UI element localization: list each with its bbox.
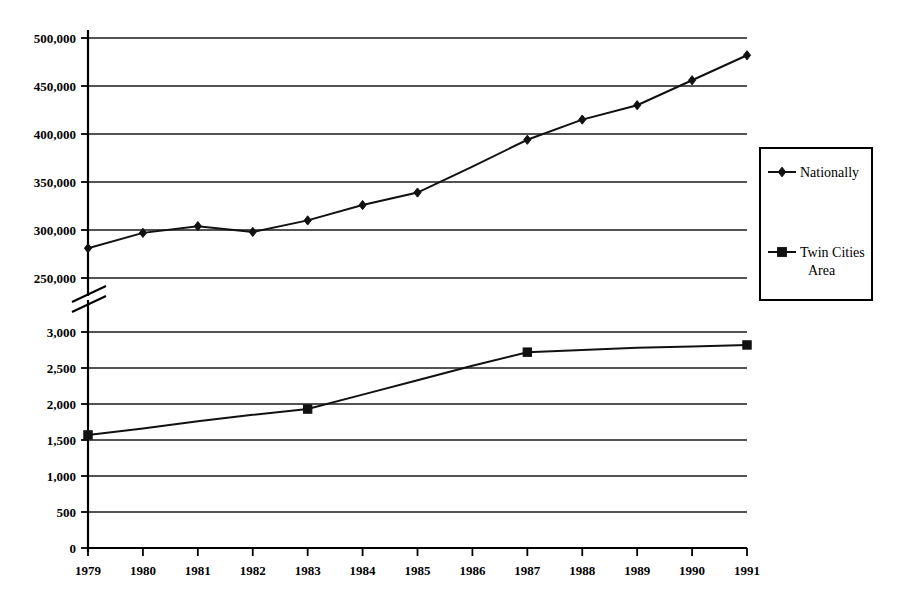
- chart-container: 250,000300,000350,000400,000450,000500,0…: [0, 0, 903, 602]
- legend-label: Nationally: [800, 165, 859, 180]
- x-tick-label: 1981: [185, 563, 211, 578]
- y-tick-label-upper: 400,000: [34, 127, 76, 142]
- y-tick-label-upper: 500,000: [34, 31, 76, 46]
- x-tick-label: 1982: [240, 563, 266, 578]
- legend-label-continued: Area: [808, 263, 836, 278]
- x-tick-label: 1984: [350, 563, 377, 578]
- data-point-marker-diamond: [634, 101, 641, 110]
- x-tick-label: 1983: [295, 563, 322, 578]
- y-tick-label-lower: 2,000: [47, 397, 76, 412]
- series-polyline: [88, 345, 747, 435]
- lower-panel-gridlines: [88, 332, 747, 548]
- chart-legend: NationallyTwin CitiesArea: [760, 148, 872, 300]
- lower-panel-y-tick-labels: 05001,0001,5002,0002,5003,000: [47, 325, 76, 556]
- data-point-marker-diamond: [359, 200, 366, 209]
- y-tick-label-upper: 350,000: [34, 175, 76, 190]
- x-tick-label: 1979: [75, 563, 102, 578]
- data-point-marker-square: [84, 431, 92, 439]
- y-tick-label-lower: 1,000: [47, 469, 76, 484]
- x-tick-label: 1989: [624, 563, 651, 578]
- y-tick-label-lower: 2,500: [47, 361, 76, 376]
- x-axis-ticks: [88, 548, 747, 556]
- data-point-marker-diamond: [579, 115, 586, 124]
- data-point-marker-diamond: [84, 244, 91, 253]
- x-tick-label: 1990: [679, 563, 705, 578]
- y-tick-label-lower: 3,000: [47, 325, 76, 340]
- y-tick-label-lower: 500: [57, 505, 77, 520]
- axis-lines: [88, 30, 747, 552]
- series-nationally: [84, 51, 750, 253]
- series-polyline: [88, 55, 747, 248]
- legend-label: Twin Cities: [800, 245, 865, 260]
- y-tick-label-lower: 0: [70, 541, 77, 556]
- x-tick-label: 1980: [130, 563, 156, 578]
- data-point-marker-square: [303, 405, 311, 413]
- y-tick-label-upper: 250,000: [34, 271, 76, 286]
- data-point-marker-diamond: [304, 216, 311, 225]
- series-twin-cities-area: [84, 341, 751, 439]
- data-point-marker-diamond: [249, 227, 256, 236]
- data-point-marker-diamond: [743, 51, 750, 60]
- x-tick-label: 1991: [734, 563, 760, 578]
- upper-panel-gridlines: [88, 38, 747, 278]
- data-point-marker-square: [778, 248, 787, 257]
- data-point-marker-diamond: [688, 76, 695, 85]
- x-tick-label: 1986: [459, 563, 486, 578]
- y-tick-label-upper: 300,000: [34, 223, 76, 238]
- x-tick-label: 1985: [405, 563, 432, 578]
- upper-panel-y-tick-labels: 250,000300,000350,000400,000450,000500,0…: [34, 31, 76, 286]
- data-point-marker-square: [743, 341, 751, 349]
- data-point-marker-diamond: [524, 135, 531, 144]
- x-tick-label: 1988: [569, 563, 596, 578]
- data-point-marker-diamond: [414, 188, 421, 197]
- broken-axis-line-chart: 250,000300,000350,000400,000450,000500,0…: [0, 0, 903, 602]
- x-axis-tick-labels: 1979198019811982198319841985198619871988…: [75, 563, 760, 578]
- x-tick-label: 1987: [514, 563, 541, 578]
- y-tick-label-upper: 450,000: [34, 79, 76, 94]
- y-tick-label-lower: 1,500: [47, 433, 76, 448]
- data-point-marker-square: [523, 348, 531, 356]
